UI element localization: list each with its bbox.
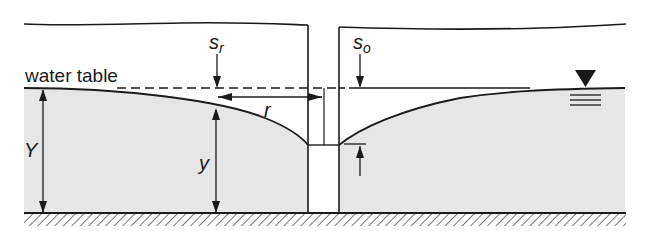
- ground-surface-right: [339, 24, 626, 29]
- aquifer-right: [339, 88, 625, 213]
- ground-surface-left: [24, 23, 308, 25]
- y-label: y: [197, 152, 210, 174]
- Y-label: Y: [24, 139, 39, 161]
- water-table-label: water table: [24, 65, 118, 86]
- r-label: r: [264, 99, 272, 121]
- s-o-arrowhead: [356, 76, 364, 88]
- s-r-label: sr: [209, 31, 225, 56]
- well-drawdown-diagram: r sr so y Y water table: [0, 0, 645, 231]
- r-arrowhead-left: [218, 93, 232, 101]
- s-o-label: so: [353, 31, 371, 56]
- water-level-triangle-icon: [575, 70, 596, 87]
- s-r-arrowhead: [213, 76, 221, 88]
- impermeable-base-hatch: [24, 213, 626, 226]
- r-arrowhead-right: [308, 93, 322, 101]
